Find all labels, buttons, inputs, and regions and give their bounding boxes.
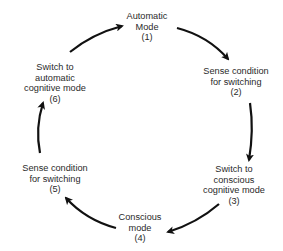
arrow-6-to-1 (70, 26, 122, 52)
node-6-line-2: automatic (24, 73, 86, 84)
node-6-line-1: Switch to (24, 62, 86, 73)
node-2-number: (2) (203, 87, 268, 98)
node-2-line-2: for switching (203, 77, 268, 88)
node-4-line-1: Conscious (119, 212, 162, 223)
node-1-line-2: Mode (127, 22, 168, 33)
node-2-line-1: Sense condition (203, 66, 268, 77)
node-6-line-3: cognitive mode (24, 83, 86, 94)
arrow-1-to-2 (177, 28, 228, 59)
node-5-number: (5) (22, 184, 87, 195)
arrow-5-to-6 (38, 103, 43, 153)
node-conscious-mode: Conscious mode (4) (119, 212, 162, 244)
node-3-line-2: conscious (203, 175, 265, 186)
node-1-number: (1) (127, 32, 168, 43)
node-switch-to-conscious: Switch to conscious cognitive mode (3) (203, 164, 265, 206)
node-switch-to-automatic: Switch to automatic cognitive mode (6) (24, 62, 86, 104)
node-1-line-1: Automatic (127, 11, 168, 22)
arrow-3-to-4 (168, 204, 219, 232)
node-5-line-1: Sense condition (22, 163, 87, 174)
node-4-line-2: mode (119, 223, 162, 234)
node-3-number: (3) (203, 196, 265, 207)
node-3-line-1: Switch to (203, 164, 265, 175)
node-sense-condition-2: Sense condition for switching (2) (203, 66, 268, 98)
node-4-number: (4) (119, 233, 162, 244)
arrow-2-to-3 (249, 103, 252, 160)
cognitive-mode-cycle-diagram: Automatic Mode (1) Sense condition for s… (0, 0, 283, 251)
node-automatic-mode: Automatic Mode (1) (127, 11, 168, 43)
node-6-number: (6) (24, 94, 86, 105)
node-sense-condition-5: Sense condition for switching (5) (22, 163, 87, 195)
node-5-line-2: for switching (22, 174, 87, 185)
arrow-4-to-5 (66, 198, 116, 228)
node-3-line-3: cognitive mode (203, 185, 265, 196)
